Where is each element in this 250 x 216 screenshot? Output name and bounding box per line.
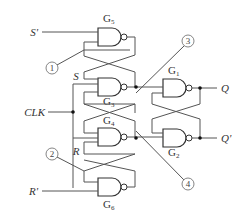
- wire-clk-g3: [73, 84, 98, 188]
- gate-g1: [163, 79, 192, 97]
- gate-label-g5: G5: [103, 12, 115, 26]
- leader-1: [57, 50, 84, 65]
- junction-q-prime: [198, 136, 202, 140]
- marker-4: 4: [182, 178, 194, 190]
- label-q: Q: [221, 82, 229, 94]
- gate-g4: [98, 128, 127, 146]
- junction-g3: [134, 85, 138, 89]
- flip-flop-diagram: G5 G3 G4 G6 G1 G2: [0, 0, 250, 216]
- gate-g6: [98, 178, 127, 196]
- gate-g3: [98, 78, 127, 96]
- junction-g4: [134, 136, 138, 140]
- wire-g5-out: [127, 37, 135, 55]
- wire-g6-out: [127, 171, 135, 187]
- wire-cross-3a: [84, 154, 135, 171]
- junction-q: [198, 86, 202, 90]
- gate-label-g1: G1: [168, 64, 180, 78]
- label-r: R: [72, 145, 80, 157]
- leader-2: [57, 157, 84, 171]
- wire-g3-in1: [84, 72, 98, 79]
- wire-g4-in3: [84, 142, 98, 154]
- svg-text:2: 2: [50, 149, 55, 159]
- marker-1: 1: [46, 62, 58, 74]
- gate-label-g3: G3: [103, 95, 115, 109]
- gate-g5: [98, 28, 127, 46]
- marker-3: 3: [182, 35, 194, 47]
- gate-g2: [163, 129, 192, 147]
- svg-text:3: 3: [186, 36, 191, 46]
- label-r-prime: R': [28, 185, 39, 197]
- gate-label-g4: G4: [103, 114, 115, 128]
- gate-label-g6: G6: [103, 198, 115, 212]
- label-s-prime: S': [30, 26, 39, 38]
- wire-cross-3b: [84, 160, 135, 171]
- wire-g4-in1: [84, 121, 98, 133]
- gate-label-g2: G2: [168, 146, 180, 160]
- label-clk: CLK: [24, 106, 45, 118]
- marker-2: 2: [46, 148, 58, 160]
- svg-text:1: 1: [50, 63, 55, 73]
- wire-g6-in1: [84, 171, 98, 182]
- label-s: S: [73, 70, 79, 82]
- label-q-prime: Q': [221, 132, 232, 144]
- junction-clk: [71, 110, 75, 114]
- svg-text:4: 4: [186, 179, 191, 189]
